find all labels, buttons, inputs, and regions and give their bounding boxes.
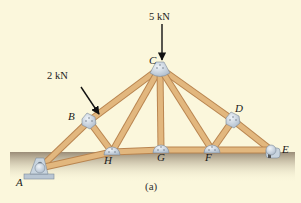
member-CF-face (160, 68, 212, 150)
bolt-G-2 (160, 146, 161, 147)
joint-label-E: E (281, 143, 289, 155)
bolt-B-0 (85, 120, 86, 121)
joint-label-C: C (149, 54, 157, 66)
bolt-C-1 (162, 67, 163, 68)
member-BC-face (89, 68, 160, 121)
bolt-F-1 (214, 149, 215, 150)
bolt-H-0 (108, 151, 109, 152)
joint-label-D: D (234, 102, 243, 114)
bolt-F-2 (211, 146, 212, 147)
joint-label-F: F (204, 151, 212, 163)
bolt-H-2 (111, 148, 112, 149)
gusset-plate-E (266, 145, 276, 155)
bolt-D-1 (235, 119, 236, 120)
bolt-C-0 (156, 67, 157, 68)
member-CG-face (160, 68, 161, 150)
bolt-B-2 (88, 117, 89, 118)
bolt-B-1 (91, 120, 92, 121)
gusset-plate-A (35, 163, 45, 173)
figure-caption: (a) (145, 180, 158, 193)
joint-label-G: G (157, 151, 165, 163)
load-label-2kN: 2 kN (47, 70, 68, 81)
bolt-C-2 (159, 64, 160, 65)
joint-label-A: A (15, 176, 23, 188)
truss-diagram: 2 kN 5 kN A B C D E F G H (a) (0, 0, 301, 203)
load-arrow-2kN (81, 87, 99, 114)
bolt-D-2 (232, 116, 233, 117)
bolt-H-1 (114, 151, 115, 152)
truss-figure: 2 kN 5 kN A B C D E F G H (a) (0, 0, 301, 203)
member-DE-face (233, 120, 271, 150)
joint-label-H: H (103, 154, 113, 166)
member-HC-face (112, 68, 160, 152)
load-label-5kN: 5 kN (149, 11, 170, 22)
joint-label-B: B (68, 110, 75, 122)
bolt-D-0 (229, 119, 230, 120)
member-CD-face (160, 68, 233, 120)
